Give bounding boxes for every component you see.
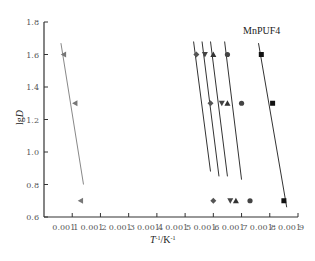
svg-text:3: 3 — [130, 223, 135, 232]
x-tick-label: 0.001 — [278, 223, 301, 232]
fit-line — [258, 43, 286, 207]
axes: 0.60.81.01.21.41.61.80.001 10.001 20.001… — [26, 18, 304, 232]
data-point-circle — [239, 101, 244, 106]
data-point-square — [259, 52, 264, 57]
data-point-triangle-up — [210, 52, 216, 57]
x-tick-label: 0.001 — [81, 223, 104, 232]
fit-line — [202, 42, 219, 177]
x-tick-label: 0.001 — [165, 223, 188, 232]
data-point-triangle-left — [72, 100, 77, 106]
svg-text:6: 6 — [214, 223, 219, 232]
svg-text:7: 7 — [243, 223, 248, 232]
svg-text:1: 1 — [73, 223, 78, 232]
data-point-diamond — [210, 198, 216, 204]
data-point-triangle-up — [233, 198, 239, 203]
y-tick-label: 0.8 — [26, 181, 39, 190]
fit-lines — [61, 42, 287, 208]
svg-text:9: 9 — [299, 223, 304, 232]
x-tick-label: 0.001 — [137, 223, 160, 232]
svg-text:8: 8 — [271, 223, 276, 232]
x-tick-label: 0.001 — [109, 223, 132, 232]
data-point-circle — [225, 52, 230, 57]
x-tick-label: 0.001 — [250, 223, 273, 232]
data-point-triangle-down — [219, 101, 225, 106]
svg-text:4: 4 — [158, 223, 163, 232]
data-point-diamond — [193, 52, 199, 58]
y-tick-label: 0.6 — [26, 213, 39, 222]
data-point-triangle-down — [227, 198, 233, 203]
annotation-label: MnPUF4 — [243, 25, 280, 36]
svg-text:5: 5 — [186, 223, 191, 232]
fit-line — [225, 42, 242, 180]
fit-line — [194, 42, 211, 172]
data-point-triangle-down — [202, 52, 208, 57]
y-tick-label: 1.4 — [26, 83, 39, 92]
data-points — [61, 52, 287, 204]
data-point-triangle-up — [224, 100, 230, 105]
y-tick-label: 1.2 — [26, 116, 39, 125]
x-axis-label: T-1/K-1 — [150, 234, 176, 245]
y-tick-label: 1.8 — [26, 18, 39, 27]
x-tick-label: 0.001 — [222, 223, 245, 232]
y-tick-label: 1.6 — [26, 51, 39, 60]
chart: 0.60.81.01.21.41.61.80.001 10.001 20.001… — [0, 0, 315, 261]
y-axis-label: lgD — [14, 109, 25, 125]
data-point-triangle-left — [78, 198, 83, 204]
fit-line — [61, 43, 84, 184]
fit-line — [211, 42, 228, 177]
x-tick-label: 0.001 — [193, 223, 216, 232]
data-point-circle — [247, 198, 252, 203]
y-tick-label: 1.0 — [26, 148, 39, 157]
svg-text:2: 2 — [101, 223, 106, 232]
data-point-diamond — [208, 100, 214, 106]
data-point-square — [270, 101, 275, 106]
x-tick-label: 0.001 — [52, 223, 75, 232]
data-point-square — [281, 198, 286, 203]
